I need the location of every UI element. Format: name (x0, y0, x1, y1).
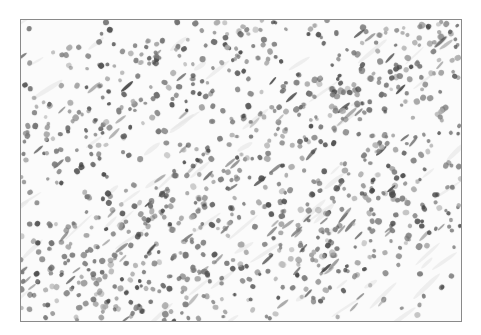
micrograph-image (20, 19, 462, 322)
nuclei-layer (21, 20, 461, 321)
tissue-cells (21, 20, 461, 321)
